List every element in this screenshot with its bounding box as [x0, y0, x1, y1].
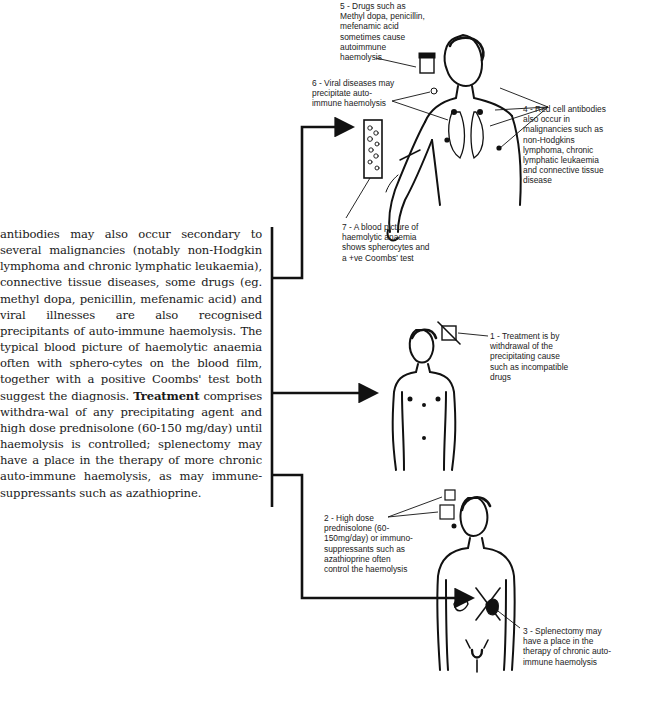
label-treatment-withdrawal: 1 - Treatment is by withdrawal of the pr…	[490, 331, 568, 382]
figure-patient-lower	[437, 490, 515, 672]
figure-patient-upper	[364, 35, 521, 240]
body-text-part2: comprises withdra-wal of any precipitati…	[0, 389, 262, 500]
body-text-part1: antibodies may also occur secondary to s…	[0, 227, 262, 403]
leader-line-1	[458, 333, 488, 336]
label-prednisolone: 2 - High dose prednisolone (60- 150mg/da…	[324, 513, 413, 574]
label-drugs: 5 - Drugs such as Methyl dopa, penicilli…	[340, 1, 425, 62]
label-viral-diseases: 6 - Viral diseases may precipitate auto-…	[312, 78, 394, 109]
label-splenectomy: 3 - Splenectomy may have a place in the …	[523, 626, 611, 667]
treatment-heading: Treatment	[133, 389, 199, 403]
label-blood-picture: 7 - A blood picture of haemolytic anaemi…	[342, 222, 430, 263]
figure-patient-middle	[393, 322, 460, 470]
label-red-cell-antibodies: 4 - Red cell antibodies also occur in ma…	[523, 104, 606, 186]
body-paragraph: antibodies may also occur secondary to s…	[0, 226, 262, 501]
